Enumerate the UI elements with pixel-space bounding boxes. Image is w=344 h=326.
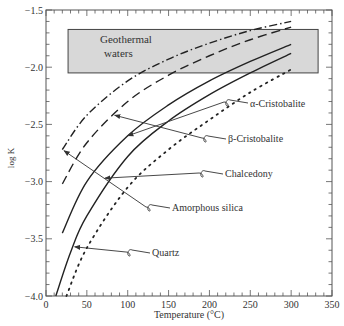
y-tick-label: −2.5	[25, 119, 43, 130]
y-axis-label: log K	[6, 147, 16, 168]
label-beta-cristobalite: β-Cristobalite	[228, 133, 284, 144]
arrow-quartz	[75, 247, 150, 256]
box-label-line2: waters	[104, 47, 133, 59]
box-label-line1: Geothermal	[100, 33, 152, 45]
label-chalcedony: Chalcedony	[225, 168, 273, 179]
x-tick-label: 250	[243, 299, 258, 310]
label-amorphous-silica: Amorphous silica	[172, 202, 243, 213]
label-quartz: Quartz	[152, 247, 180, 258]
y-tick-label: −1.5	[25, 5, 43, 16]
x-tick-label: 350	[325, 299, 340, 310]
silica-solubility-chart: 050100150200250300350−1.5−2.0−2.5−3.0−3.…	[0, 0, 344, 326]
arrow-amorphous-silica	[64, 151, 170, 211]
chart-svg: 050100150200250300350−1.5−2.0−2.5−3.0−3.…	[0, 0, 344, 326]
x-tick-label: 300	[284, 299, 299, 310]
y-tick-label: −2.0	[25, 62, 43, 73]
x-tick-label: 0	[44, 299, 49, 310]
y-tick-label: −4.0	[25, 291, 43, 302]
x-tick-label: 100	[120, 299, 135, 310]
y-tick-label: −3.0	[25, 176, 43, 187]
y-tick-label: −3.5	[25, 233, 43, 244]
annotations	[64, 100, 248, 257]
arrow-chalcedony	[105, 171, 223, 179]
arrow-alpha-cristobalite	[128, 100, 248, 136]
label-alpha-cristobalite: α-Cristobalite	[250, 98, 306, 109]
x-tick-label: 50	[82, 299, 92, 310]
x-axis-label: Temperature (°C)	[154, 309, 224, 321]
